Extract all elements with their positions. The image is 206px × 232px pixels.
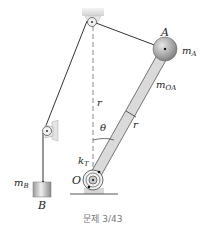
label-kT-sub: T [84,160,89,168]
label-theta: θ [100,123,106,133]
label-r-vertical: r [97,98,102,108]
label-mOA-sub: OA [165,84,176,92]
top-pulley [88,18,97,27]
label-r-rod: r [133,120,138,130]
ball-A [153,37,177,61]
mechanism-diagram [0,0,206,232]
label-mA: mA [182,46,197,58]
label-mB-sub: B [23,182,28,190]
block-B [33,181,51,197]
label-mOA: mOA [156,80,176,92]
left-pulley [43,120,59,141]
label-B: B [38,200,46,211]
label-O: O [72,175,81,186]
figure-caption: 문제 3/43 [0,212,206,225]
label-kT: kT [78,156,89,168]
label-A: A [161,27,169,38]
label-mA-sub: A [191,50,196,58]
label-mB: mB [14,178,29,190]
rod-OA [89,48,170,181]
